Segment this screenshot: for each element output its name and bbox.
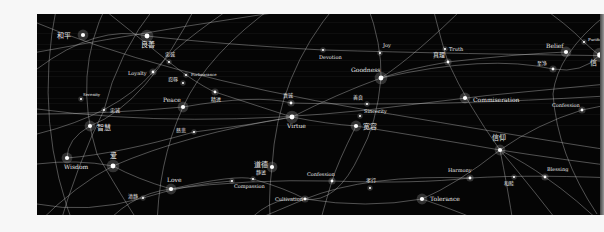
node-blessing: Blessing <box>541 166 569 181</box>
node-label: Loyalty <box>128 70 147 77</box>
node-label: Confession <box>552 102 581 108</box>
node-dot-icon <box>111 164 116 169</box>
node-label: 爱 <box>110 152 117 160</box>
node-label: Cultivation <box>275 196 304 202</box>
node-devotion: Devotion <box>319 47 342 60</box>
node-commiseration: Commiseration <box>460 93 520 104</box>
node-tolerance: Tolerance <box>417 194 461 205</box>
node-peace: Peace <box>163 96 188 112</box>
node-label: 智慧 <box>97 123 111 132</box>
node-label: 宽容 <box>363 122 377 131</box>
node-label: Wisdom <box>64 163 89 170</box>
node-dot-icon <box>181 105 185 109</box>
node-guangai: 真诚 <box>283 92 295 107</box>
node-liangjie: 良善 <box>141 30 155 49</box>
node-dot-icon <box>379 52 381 54</box>
node-label: 忠诚 <box>110 107 120 114</box>
node-sincerity: Sincerity <box>357 108 387 119</box>
nodes: 和平良善DevotionJoyTruth真理GoodnessBeliefPuri… <box>57 30 600 205</box>
node-dot-icon <box>552 68 555 71</box>
node-dot-icon <box>80 98 82 100</box>
node-label: Belief <box>546 42 564 49</box>
node-dot-icon <box>463 96 467 100</box>
node-label: Serenity <box>83 92 101 97</box>
node-label: Truth <box>449 46 464 52</box>
node-label: Purification <box>588 37 600 42</box>
node-dot-icon <box>420 197 424 201</box>
node-dot-icon <box>359 115 361 117</box>
node-goodness: Goodness <box>351 66 387 84</box>
node-label: 慈悲 <box>176 127 186 133</box>
node-dot-icon <box>103 109 105 111</box>
connection-line <box>87 14 147 215</box>
node-label: Compassion <box>234 183 266 190</box>
node-label: 真诚 <box>283 92 293 99</box>
node-serenity: Serenity <box>78 92 101 102</box>
node-zhongcheng2: 忠诚 <box>101 107 120 114</box>
node-label: 孝行 <box>366 177 376 184</box>
node-dot-icon <box>270 165 274 169</box>
node-dot-icon <box>444 48 446 50</box>
node-label: 信仰 <box>492 133 506 142</box>
node-dot-icon <box>231 180 233 182</box>
node-dot-icon <box>65 156 69 160</box>
node-label: Confession <box>307 171 336 177</box>
node-virtue: Virtue <box>286 111 307 129</box>
node-dot-icon <box>81 33 85 37</box>
node-label: 忍辱 <box>168 76 178 82</box>
node-dot-icon <box>354 124 358 128</box>
node-dot-icon <box>322 49 324 51</box>
node-label: 善良 <box>353 94 363 101</box>
node-purification: Purification <box>581 37 600 45</box>
node-dot-icon <box>88 124 92 128</box>
node-label: Peace <box>163 96 181 103</box>
node-xiaoxiang: 孝行 <box>366 177 376 191</box>
node-heping: 和平 <box>57 30 88 41</box>
node-label: 忠诚 <box>165 51 175 58</box>
node-label: Joy <box>382 42 391 49</box>
node-label: 真理 <box>433 51 445 59</box>
node-dot-icon <box>447 61 450 64</box>
connection-lines <box>37 14 600 215</box>
node-kuanrong: 宽容 <box>351 121 377 132</box>
node-shanliang: 善良 <box>353 94 370 107</box>
node-label: Sincerity <box>364 108 387 115</box>
node-confession1: Confession <box>552 102 586 114</box>
node-dot-icon <box>252 178 254 180</box>
node-dot-icon <box>152 71 155 74</box>
node-label: Commiseration <box>473 96 520 103</box>
node-wisdom: Wisdom <box>62 153 89 170</box>
node-dot-icon <box>369 187 371 189</box>
node-label: 至净 <box>537 60 547 67</box>
node-xin: 信 <box>590 48 600 67</box>
node-dot-icon <box>145 34 150 39</box>
node-dot-icon <box>169 187 173 191</box>
node-dot-icon <box>379 76 384 81</box>
node-xinyang: 信仰 <box>492 133 506 155</box>
node-dot-icon <box>469 177 472 180</box>
node-dot-icon <box>290 102 293 105</box>
node-dot-icon <box>304 198 307 201</box>
node-jingyi: 精进 <box>211 88 221 103</box>
node-truth: Truth <box>442 46 464 52</box>
node-dot-icon <box>581 109 584 112</box>
node-label: 信 <box>590 58 597 67</box>
node-cibei: 慈悲 <box>176 127 197 135</box>
node-compassion: Compassion <box>229 178 265 190</box>
node-label: 精进 <box>211 96 221 103</box>
node-label: Devotion <box>319 54 342 60</box>
node-label: Virtue <box>286 122 306 129</box>
node-cultivation: Cultivation <box>275 195 309 202</box>
node-dot-icon <box>182 82 184 84</box>
node-label: 静谧 <box>256 169 266 176</box>
node-label: Blessing <box>547 166 569 173</box>
node-label: Harmony <box>448 167 472 174</box>
page-edge <box>600 14 604 215</box>
node-label: 道德 <box>254 160 268 169</box>
connection-line <box>500 150 600 215</box>
node-dot-icon <box>214 91 217 94</box>
connection-line <box>37 19 600 154</box>
node-dot-icon <box>513 176 515 178</box>
node-label: 和平 <box>57 31 71 40</box>
node-confession2: Confession <box>307 171 336 185</box>
